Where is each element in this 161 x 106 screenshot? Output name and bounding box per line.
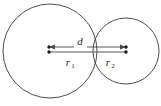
label-radius-r1-subscript: 1 [71, 62, 75, 70]
left-center-dot-lower [47, 50, 50, 53]
label-distance-d: d [77, 35, 83, 47]
right-center-dot-lower [124, 50, 127, 53]
label-radius-r1: r 1 [66, 56, 75, 70]
geometry-figure: d r 1 r 2 [0, 0, 161, 106]
left-center-dot-upper [47, 45, 50, 48]
label-radius-r2: r 2 [106, 56, 115, 70]
label-radius-r2-subscript: 2 [111, 62, 115, 70]
two-circles-diagram-canvas: d r 1 r 2 [0, 0, 161, 106]
right-center-dot-upper [124, 45, 127, 48]
label-radius-r1-base: r [66, 56, 71, 68]
label-radius-r2-base: r [106, 56, 111, 68]
distance-measure-d [49, 45, 126, 50]
